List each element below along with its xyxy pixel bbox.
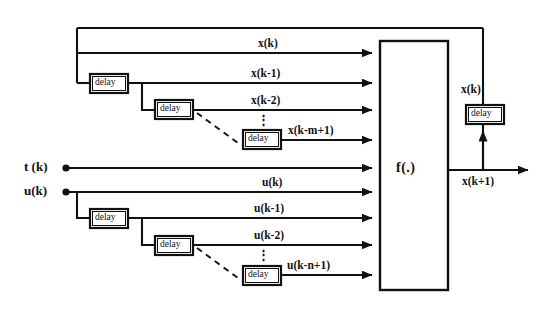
u-delay-1-label: delay bbox=[95, 213, 116, 223]
label-input-t: t (k) bbox=[24, 160, 47, 173]
x-delay-1-label: delay bbox=[95, 78, 116, 88]
label-signal-uk-n: u(k-n+1) bbox=[287, 260, 330, 272]
x-delay-2-label: delay bbox=[160, 104, 181, 114]
label-signal-uk-1: u(k-1) bbox=[254, 203, 284, 215]
u-chain-dashed bbox=[197, 248, 238, 278]
label-signal-uk-2: u(k-2) bbox=[254, 230, 284, 242]
label-function-block: f(.) bbox=[396, 161, 416, 175]
delay1-branch bbox=[142, 83, 155, 110]
u-delay-n-label: delay bbox=[248, 270, 269, 280]
label-output-xk-plus-1: x(k+1) bbox=[462, 176, 494, 188]
feedback-delay-label: delay bbox=[471, 109, 492, 119]
u-delay-2-label: delay bbox=[160, 240, 181, 250]
label-signal-xk: x(k) bbox=[258, 38, 278, 50]
x-chain-dashed bbox=[197, 113, 238, 143]
u-chain-ellipsis: ⋮ bbox=[257, 251, 270, 258]
input-trunk-vertical bbox=[77, 192, 90, 218]
label-signal-xk-2: x(k-2) bbox=[251, 95, 280, 107]
diagram-canvas: x(k) x(k-1) x(k-2) x(k-m+1) u(k) u(k-1) … bbox=[0, 0, 546, 313]
label-feedback-state: x(k) bbox=[461, 84, 481, 96]
label-signal-xk-1: x(k-1) bbox=[251, 68, 280, 80]
u-delay1-branch bbox=[142, 218, 155, 245]
label-input-u: u(k) bbox=[24, 184, 47, 197]
label-signal-uk: u(k) bbox=[262, 177, 282, 189]
x-delay-m-label: delay bbox=[248, 134, 269, 144]
label-signal-xk-m: x(k-m+1) bbox=[288, 125, 334, 137]
x-chain-ellipsis: ⋮ bbox=[257, 116, 270, 123]
